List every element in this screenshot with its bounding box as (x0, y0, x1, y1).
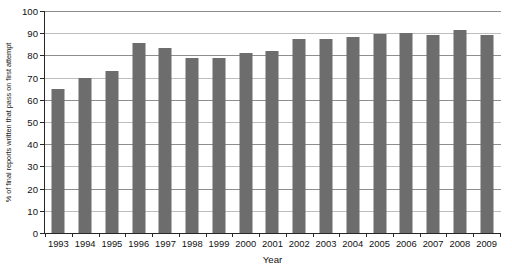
y-tick-label-50: 50 (27, 117, 38, 128)
x-tick-mark (366, 233, 367, 237)
bar[interactable] (52, 89, 65, 233)
x-tick-mark (99, 233, 100, 237)
bar[interactable] (79, 78, 92, 233)
y-tick-label-10: 10 (27, 205, 38, 216)
bar-slot (366, 11, 393, 233)
x-tick-mark (72, 233, 73, 237)
y-tick-label-80: 80 (27, 50, 38, 61)
bar-slot (259, 11, 286, 233)
x-tick-mark (393, 233, 394, 237)
x-tick-mark (152, 233, 153, 237)
bar[interactable] (239, 53, 252, 233)
x-axis-title: Year (45, 254, 500, 265)
x-tick-mark (446, 233, 447, 237)
y-tick-label-60: 60 (27, 94, 38, 105)
x-tick-label-2007: 2007 (423, 238, 444, 249)
bar-slot (72, 11, 99, 233)
bar[interactable] (266, 51, 279, 233)
y-axis-ticks: 0102030405060708090100 (0, 0, 44, 233)
bar-slot (152, 11, 179, 233)
x-tick-mark (420, 233, 421, 237)
bar-slot (45, 11, 72, 233)
x-tick-label-2001: 2001 (262, 238, 283, 249)
y-tick-label-0: 0 (33, 228, 38, 239)
bar-slot (393, 11, 420, 233)
bar[interactable] (293, 39, 306, 233)
y-tick-label-40: 40 (27, 139, 38, 150)
bar[interactable] (453, 30, 466, 233)
bar[interactable] (373, 34, 386, 233)
bar-slot (179, 11, 206, 233)
x-tick-label-2008: 2008 (449, 238, 470, 249)
x-tick-label-1994: 1994 (75, 238, 96, 249)
x-tick-mark (45, 233, 46, 237)
x-tick-label-2005: 2005 (369, 238, 390, 249)
x-tick-label-2009: 2009 (476, 238, 497, 249)
x-tick-mark (125, 233, 126, 237)
y-tick-label-100: 100 (22, 6, 38, 17)
bar-slot (286, 11, 313, 233)
x-tick-label-1999: 1999 (209, 238, 230, 249)
bar-slot (125, 11, 152, 233)
x-tick-mark (232, 233, 233, 237)
x-tick-label-2002: 2002 (289, 238, 310, 249)
bar-slot (313, 11, 340, 233)
bar-slot (420, 11, 447, 233)
bar[interactable] (346, 37, 359, 233)
x-tick-mark (259, 233, 260, 237)
bar-slot (446, 11, 473, 233)
y-tick-label-30: 30 (27, 161, 38, 172)
bar-slot (99, 11, 126, 233)
bar[interactable] (132, 43, 145, 233)
x-tick-mark (286, 233, 287, 237)
y-tick-label-70: 70 (27, 72, 38, 83)
chart-title (0, 0, 512, 3)
x-tick-label-1995: 1995 (101, 238, 122, 249)
bar[interactable] (320, 39, 333, 233)
bar-slot (473, 11, 500, 233)
bar[interactable] (105, 71, 118, 233)
x-tick-mark (473, 233, 474, 237)
x-tick-mark (500, 233, 501, 237)
x-tick-label-2000: 2000 (235, 238, 256, 249)
x-tick-label-1998: 1998 (182, 238, 203, 249)
x-tick-mark (339, 233, 340, 237)
x-tick-mark (313, 233, 314, 237)
bar[interactable] (427, 35, 440, 233)
y-tick-label-20: 20 (27, 183, 38, 194)
y-tick-label-90: 90 (27, 28, 38, 39)
x-tick-mark (206, 233, 207, 237)
bar[interactable] (212, 58, 225, 233)
bar[interactable] (480, 35, 493, 233)
bar[interactable] (186, 58, 199, 233)
bar[interactable] (400, 33, 413, 233)
x-tick-label-2004: 2004 (342, 238, 363, 249)
bar[interactable] (159, 48, 172, 233)
bar-slot (232, 11, 259, 233)
x-tick-label-1997: 1997 (155, 238, 176, 249)
x-tick-mark (179, 233, 180, 237)
x-axis-labels: 1993199419951996199719981999200020012002… (45, 238, 500, 252)
x-tick-label-1996: 1996 (128, 238, 149, 249)
x-tick-label-2006: 2006 (396, 238, 417, 249)
bar-slot (339, 11, 366, 233)
x-tick-label-2003: 2003 (316, 238, 337, 249)
bar-slot (206, 11, 233, 233)
bar-chart-figure: % of final reports written that pass on … (0, 0, 512, 272)
x-tick-label-1993: 1993 (48, 238, 69, 249)
bars-layer (45, 11, 500, 233)
